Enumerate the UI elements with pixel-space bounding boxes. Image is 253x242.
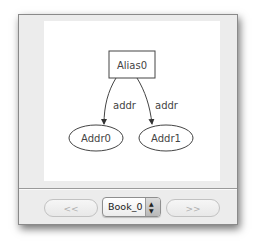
- graph-viewer-window: addr addr Alias0 Addr0 Addr1 << Book_0 ▲…: [18, 14, 238, 225]
- chevron-down-icon: ▼: [149, 208, 154, 214]
- node-alias0[interactable]: Alias0: [109, 51, 155, 78]
- edge-label-addr-0: addr: [113, 100, 137, 111]
- edge-label-addr-1: addr: [155, 100, 179, 111]
- node-addr1[interactable]: Addr1: [139, 125, 193, 151]
- book-selector-value: Book_0: [108, 201, 142, 212]
- selector-stepper[interactable]: ▲ ▼: [145, 198, 160, 216]
- graph-canvas: addr addr Alias0 Addr0 Addr1: [44, 21, 220, 181]
- node-addr1-label: Addr1: [151, 133, 181, 144]
- node-addr0-label: Addr0: [81, 133, 111, 144]
- toolbar-divider: [19, 188, 237, 190]
- node-addr0[interactable]: Addr0: [69, 125, 123, 151]
- node-alias0-label: Alias0: [117, 60, 147, 71]
- next-button[interactable]: >>: [166, 199, 220, 217]
- edge-alias0-addr1: [137, 78, 152, 124]
- previous-button[interactable]: <<: [44, 199, 98, 217]
- book-selector[interactable]: Book_0 ▲ ▼: [102, 197, 161, 217]
- graph-diagram: addr addr Alias0 Addr0 Addr1: [44, 21, 220, 181]
